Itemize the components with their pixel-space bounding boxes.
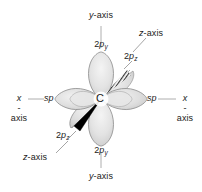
label-orbital-2py-bottom: 2py [82, 145, 120, 158]
label-sp-left: sp [44, 93, 54, 103]
label-sp-right: sp [147, 93, 157, 103]
label-z-axis-bottom-left: z-axis [23, 152, 47, 162]
label-orbital-2pz-top-right: 2pz [124, 51, 138, 64]
carbon-atom-label: C [96, 93, 104, 103]
label-z-axis-top-right: z-axis [139, 28, 163, 38]
label-orbital-2pz-bottom-left: 2pz [56, 130, 70, 143]
label-orbital-2py-top: 2py [82, 39, 120, 52]
label-x-axis-left: x- axis [6, 93, 32, 123]
label-y-axis-top: y-axis [79, 10, 123, 20]
orbital-diagram-figure: y-axis 2py z-axis 2pz x- axis sp sp x- a… [0, 0, 202, 192]
label-y-axis-bottom: y-axis [79, 171, 123, 181]
label-x-axis-right: x- axis [172, 93, 198, 123]
